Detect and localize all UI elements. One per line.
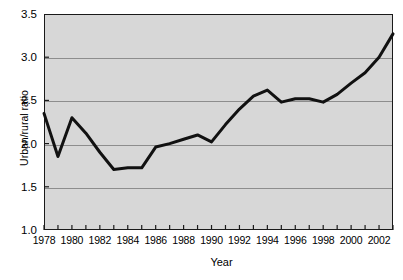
x-axis-title-text: Year xyxy=(170,256,232,268)
data-series-line xyxy=(44,34,393,170)
x-tick-label-1998: 1998 xyxy=(312,234,335,246)
x-tick-label-1990: 1990 xyxy=(200,234,223,246)
x-axis-title: Year xyxy=(0,256,403,268)
x-tick-label-1978: 1978 xyxy=(33,234,56,246)
x-axis-tick-labels: 1978198019821984198619881990199219941996… xyxy=(0,234,403,250)
x-tick-label-1984: 1984 xyxy=(117,234,140,246)
x-tick-label-1986: 1986 xyxy=(144,234,167,246)
x-tick-label-1994: 1994 xyxy=(256,234,279,246)
x-tick-marks xyxy=(44,225,393,230)
chart-figure: 3.5 3.0 2.5 2.0 1.5 1.0 Urban/rural rati… xyxy=(0,0,403,280)
x-tick-label-1996: 1996 xyxy=(284,234,307,246)
x-tick-label-1988: 1988 xyxy=(172,234,195,246)
x-tick-label-2000: 2000 xyxy=(340,234,363,246)
x-tick-label-1980: 1980 xyxy=(61,234,84,246)
x-tick-label-1992: 1992 xyxy=(228,234,251,246)
x-tick-label-1982: 1982 xyxy=(89,234,112,246)
x-tick-label-2002: 2002 xyxy=(368,234,391,246)
